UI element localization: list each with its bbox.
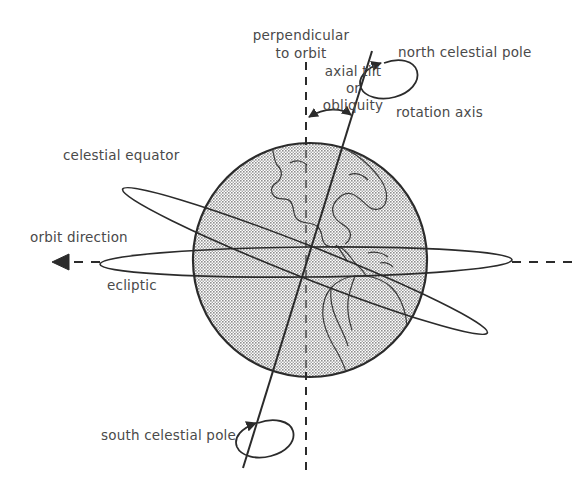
- label-orbit-direction: orbit direction: [30, 229, 128, 245]
- earth-axial-tilt-diagram: perpendicular to orbit axial tilt or obl…: [0, 0, 587, 490]
- diagram-canvas: perpendicular to orbit axial tilt or obl…: [0, 0, 587, 490]
- label-celestial-equator: celestial equator: [63, 147, 180, 163]
- label-axial-tilt-line1: axial tilt: [325, 63, 381, 79]
- label-rotation-axis: rotation axis: [396, 104, 483, 120]
- globe-circle: [193, 143, 427, 377]
- south-pole-rotation-arrow: [236, 420, 293, 457]
- label-axial-tilt-line2: or: [346, 80, 360, 96]
- orbit-direction-arrow: [52, 254, 69, 270]
- label-perpendicular-to-orbit-line2: to orbit: [276, 45, 327, 61]
- label-ecliptic: ecliptic: [107, 277, 157, 293]
- label-north-celestial-pole: north celestial pole: [398, 44, 532, 60]
- earth-globe: [193, 138, 427, 391]
- label-south-celestial-pole: south celestial pole: [101, 427, 236, 443]
- label-perpendicular-to-orbit-line1: perpendicular: [253, 27, 350, 43]
- label-obliquity-line3: obliquity: [323, 97, 383, 113]
